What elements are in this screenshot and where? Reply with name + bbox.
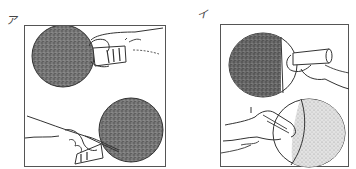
panel-label-a: ア xyxy=(6,11,17,27)
shakehand-grip-illustration xyxy=(25,26,167,168)
paddle-bottom-icon xyxy=(25,98,163,164)
penhold-paddle-bottom-icon xyxy=(221,97,350,167)
panel-penhold-grip xyxy=(220,24,349,167)
penhold-paddle-top-icon xyxy=(221,25,349,105)
panel-shakehand-grip xyxy=(24,25,166,167)
panel-label-b: イ xyxy=(197,5,208,21)
penhold-grip-illustration xyxy=(221,25,350,168)
paddle-top-icon xyxy=(32,26,163,87)
